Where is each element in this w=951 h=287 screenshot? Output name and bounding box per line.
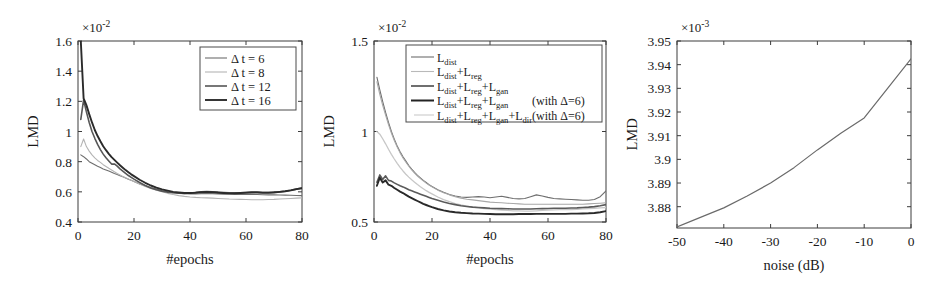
- panel-3-svg: -50-40-30-20-1003.883.893.93.913.923.933…: [648, 0, 951, 287]
- legend-label-3: Δ t = 16: [231, 94, 271, 108]
- panel-2-yticklabel: 1: [361, 125, 368, 140]
- chart-panel-3: -50-40-30-20-1003.883.893.93.913.923.933…: [648, 0, 951, 287]
- panel-1-yticklabel: 0.8: [55, 155, 72, 170]
- panel-1-y-exponent: ×10-2: [82, 19, 111, 35]
- panel-2-y-exponent: ×10-2: [378, 19, 407, 35]
- panel-3-xticklabel: -50: [668, 234, 686, 249]
- panel-2-xticklabel: 60: [541, 228, 555, 243]
- panel-1-svg: 0204060800.40.60.811.21.41.6×10-2#epochs…: [0, 0, 318, 287]
- panel-1-yticklabel: 0.4: [55, 215, 72, 230]
- legend-label-2: Δ t = 12: [231, 80, 271, 94]
- panel-1-yticklabel: 1.6: [55, 34, 72, 49]
- panel-3-ylabel: LMD: [624, 118, 640, 150]
- panel-3-yticklabel: 3.89: [647, 176, 671, 191]
- panel-1-xlabel: #epochs: [166, 251, 214, 267]
- panel-2-xticklabel: 20: [425, 228, 439, 243]
- figure-root: 0204060800.40.60.811.21.41.6×10-2#epochs…: [0, 0, 951, 287]
- panel-1-series-1: [81, 139, 302, 200]
- panel-3-yticklabel: 3.93: [647, 81, 671, 96]
- panel-2-yticklabel: 0.5: [351, 215, 368, 230]
- legend-label-1: Δ t = 8: [231, 66, 265, 80]
- panel-3-xticklabel: -20: [808, 234, 826, 249]
- chart-panel-1: 0204060800.40.60.811.21.41.6×10-2#epochs…: [0, 0, 318, 287]
- panel-3-series-0: [677, 59, 911, 227]
- panel-2-svg: 0204060800.511.5×10-2#epochsLMDLdistLdis…: [318, 0, 648, 287]
- panel-2-xticklabel: 0: [371, 228, 378, 243]
- panel-3-yticklabel: 3.94: [647, 58, 671, 73]
- panel-1-xticklabel: 80: [295, 228, 309, 243]
- panel-1-yticklabel: 0.6: [55, 185, 72, 200]
- panel-2-ylabel: LMD: [321, 115, 337, 147]
- chart-panel-2: 0204060800.511.5×10-2#epochsLMDLdistLdis…: [318, 0, 648, 287]
- legend2-note-3: (with Δ=6): [532, 94, 585, 108]
- panel-1-xticklabel: 60: [239, 228, 253, 243]
- panel-1-plot: 0204060800.40.60.811.21.41.6×10-2#epochs…: [25, 19, 309, 267]
- panel-1-series-2: [81, 100, 302, 194]
- panel-3-yticklabel: 3.9: [654, 152, 671, 167]
- panel-3-y-exponent: ×10-3: [681, 19, 710, 35]
- panel-3-xlabel: noise (dB): [764, 257, 825, 274]
- panel-3-xticklabel: -10: [855, 234, 873, 249]
- panel-2-xticklabel: 80: [599, 228, 613, 243]
- panel-2-yticklabel: 1.5: [351, 34, 368, 49]
- panel-1-yticklabel: 1.2: [55, 94, 72, 109]
- panel-3-series-group: [677, 59, 911, 227]
- panel-3-yticklabel: 3.95: [647, 34, 671, 49]
- panel-1-xticklabel: 0: [75, 228, 82, 243]
- legend-label-0: Δ t = 6: [231, 52, 265, 66]
- panel-1-series-0: [81, 155, 302, 196]
- panel-2-plot: 0204060800.511.5×10-2#epochsLMDLdistLdis…: [321, 19, 613, 267]
- panel-3-yticklabel: 3.92: [647, 105, 671, 120]
- panel-3-plot: -50-40-30-20-1003.883.893.93.913.923.933…: [624, 19, 915, 274]
- panel-1-xticklabel: 20: [127, 228, 141, 243]
- panel-3-yticklabel: 3.91: [647, 129, 671, 144]
- panel-3-xticklabel: -40: [715, 234, 733, 249]
- panel-3-xticklabel: 0: [908, 234, 915, 249]
- panel-2-xticklabel: 40: [483, 228, 497, 243]
- panel-2-xlabel: #epochs: [466, 251, 514, 267]
- panel-1-xticklabel: 40: [183, 228, 197, 243]
- legend2-note-4: (with Δ=6): [532, 109, 585, 123]
- panel-3-frame: [677, 41, 911, 228]
- panel-1-yticklabel: 1: [65, 125, 72, 140]
- panel-3-xticklabel: -30: [762, 234, 780, 249]
- panel-1-yticklabel: 1.4: [55, 64, 72, 79]
- panel-1-ylabel: LMD: [25, 115, 41, 147]
- panel-3-yticklabel: 3.88: [647, 200, 671, 215]
